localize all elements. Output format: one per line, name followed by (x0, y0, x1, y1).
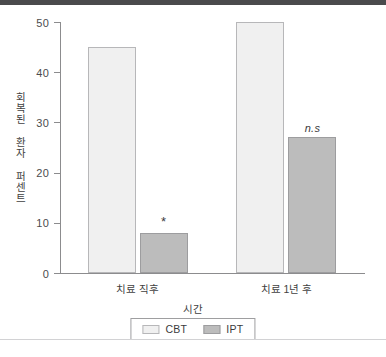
y-axis-title: 회복된 환자 퍼센트 (15, 92, 26, 204)
not-significant-annotation: n.s (289, 122, 335, 134)
legend-label-ipt: IPT (226, 323, 243, 335)
chart-legend: CBTIPT (130, 318, 255, 340)
y-axis-tick-label: 50 (36, 17, 49, 29)
y-axis-tick-label: 20 (36, 167, 49, 179)
legend-swatch-ipt (203, 325, 220, 334)
y-axis-tick-label: 30 (36, 117, 49, 129)
x-axis-label-group-1: 치료 직후 (116, 281, 159, 296)
y-axis-tick-label: 10 (36, 217, 49, 229)
legend-swatch-cbt (142, 325, 159, 334)
legend-item-ipt[interactable]: IPT (203, 323, 243, 335)
legend-label-cbt: CBT (165, 323, 187, 335)
bar-chart: 01020304050 *n.s 치료 직후치료 1년 후 시간 회복된 환자 … (0, 5, 386, 339)
bar-cbt-group-1 (88, 47, 136, 273)
chart-page: 01020304050 *n.s 치료 직후치료 1년 후 시간 회복된 환자 … (0, 0, 386, 357)
legend-item-cbt[interactable]: CBT (142, 323, 187, 335)
x-axis-line (60, 273, 365, 274)
bar-cbt-group-2 (236, 22, 284, 273)
y-axis-tick-label: 0 (43, 268, 49, 280)
y-axis-tick-label: 40 (36, 67, 49, 79)
bar-ipt-group-1: * (140, 233, 188, 273)
bar-ipt-group-2: n.s (288, 137, 336, 273)
x-axis-label-group-2: 치료 1년 후 (261, 281, 313, 296)
x-axis-title: 시간 (183, 301, 203, 316)
plot-area: *n.s (60, 22, 364, 273)
page-bottom-rule (0, 339, 386, 340)
y-axis-tick: 0 (54, 273, 61, 274)
significance-star-annotation: * (141, 218, 187, 226)
